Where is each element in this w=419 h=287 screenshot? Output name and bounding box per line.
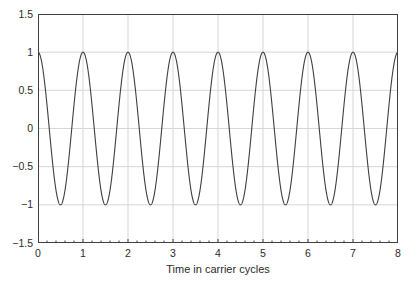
y-axis-tick-labels: −1.5−1−0.500.511.5: [0, 14, 33, 243]
y-tick-label: −1: [21, 199, 33, 210]
y-tick-label: −0.5: [12, 161, 33, 172]
y-tick-label: 1.5: [18, 9, 33, 20]
x-tick-label: 7: [350, 248, 356, 259]
chart-figure: −1.5−1−0.500.511.5 012345678 Time in car…: [0, 0, 419, 287]
x-tick-label: 4: [215, 248, 221, 259]
y-tick-label: −1.5: [12, 238, 33, 249]
x-axis-label: Time in carrier cycles: [38, 264, 398, 275]
x-tick-label: 3: [170, 248, 176, 259]
y-tick-label: 0.5: [18, 85, 33, 96]
x-tick-label: 1: [80, 248, 86, 259]
grid-lines: [38, 14, 398, 243]
x-tick-label: 8: [395, 248, 401, 259]
x-tick-label: 2: [125, 248, 131, 259]
y-tick-label: 0: [27, 123, 33, 134]
x-tick-label: 0: [35, 248, 41, 259]
x-tick-label: 5: [260, 248, 266, 259]
plot-canvas: [38, 14, 398, 243]
y-tick-label: 1: [27, 47, 33, 58]
x-axis-tick-labels: 012345678: [38, 248, 398, 262]
x-tick-label: 6: [305, 248, 311, 259]
plot-area: [38, 14, 398, 243]
